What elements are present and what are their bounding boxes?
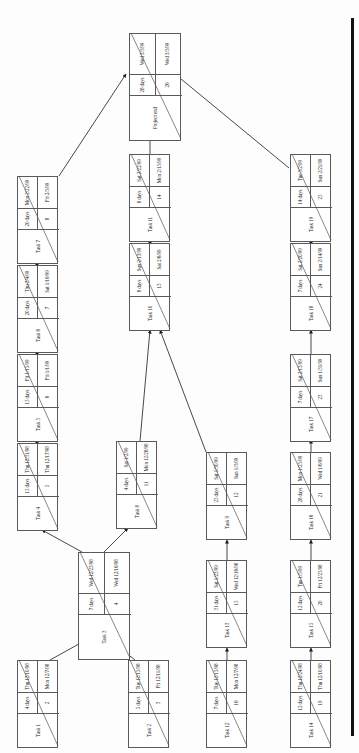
task-node-row-bottom: 4Wed 12/16/98	[105, 553, 130, 614]
task-node-row-bottom: 2Mon 12/7/98	[38, 661, 57, 713]
node-finish: Tue 12/15/98	[129, 661, 148, 692]
node-id: 23	[311, 386, 330, 407]
node-start: Mon 12/28/98	[137, 442, 156, 473]
task-node-fields: 4 daysThu 12/10/982Mon 12/7/98	[18, 661, 57, 713]
task-node[interactable]: Task 118 daysSat 2/22/9914Mon 2/15/99	[129, 154, 170, 242]
node-start: Fri 12/25/98	[311, 561, 330, 592]
node-finish: Sun 2/13/99	[130, 244, 149, 275]
task-node[interactable]: Task 1331 daysSat 1/23/9915Wed 12/16/98	[206, 560, 247, 648]
node-start: Thu 12/10/98	[311, 661, 330, 692]
node-finish: Sat 2/20/99	[291, 244, 310, 275]
task-node[interactable]: Task 187 daysSat 2/20/9924Sun 2/14/99	[290, 243, 331, 331]
task-node[interactable]: Task 1512 daysTue 1/5/9920Fri 12/25/98	[290, 560, 331, 648]
task-node-body: Project end28 daysWed 3/3/9926Wed 3/3/99	[130, 34, 180, 140]
task-node[interactable]: Task 1628 daysMon 1/25/9921Wed 1/6/99	[290, 452, 331, 540]
task-node[interactable]: Task 925 daysSat 1/30/9912Sun 1/3/99	[206, 452, 247, 540]
node-name: Task 5	[18, 407, 59, 441]
node-finish: Mon 2/22/99	[18, 177, 37, 208]
task-node-fields: 25 daysSat 1/30/9912Sun 1/3/99	[207, 453, 246, 505]
task-node-fields: 12 daysTue 1/5/9920Fri 12/25/98	[291, 561, 330, 613]
task-node-body: Task 1331 daysSat 1/23/9915Wed 12/16/98	[207, 561, 246, 647]
task-node-row-bottom: 12Sun 1/3/99	[227, 453, 246, 505]
task-node-row-bottom: 26Wed 3/3/99	[156, 34, 181, 95]
task-node-body: Task 515 daysFri 1/15/996Fri 1/1/99	[18, 355, 57, 441]
task-node[interactable]: Project end28 daysWed 3/3/9926Wed 3/3/99	[129, 33, 181, 141]
dependency-arrow[interactable]	[160, 330, 206, 452]
node-id: 19	[311, 692, 330, 713]
node-id: 7	[38, 297, 57, 318]
task-node[interactable]: Task 14 daysThu 12/10/982Mon 12/7/98	[17, 660, 58, 748]
node-duration: 14 days	[291, 186, 310, 207]
node-start: Wed 3/3/99	[156, 34, 181, 74]
task-node[interactable]: Task 108 daysSun 2/13/9913Sat 2/6/99	[129, 243, 170, 331]
dependency-arrow[interactable]	[140, 330, 150, 441]
node-finish: Thu 2/4/99	[18, 266, 37, 297]
task-node-fields: 7 daysWed 12/23/984Wed 12/16/98	[79, 553, 129, 614]
task-node[interactable]: Task 1914 daysTue 3/2/9925Sun 2/21/99	[290, 154, 331, 242]
task-node-row-top: 31 daysSat 1/23/99	[207, 561, 227, 613]
node-duration: 12 days	[291, 692, 310, 713]
task-node[interactable]: Task 25 daysTue 12/15/983Fri 12/11/98	[128, 660, 169, 748]
task-node-row-top: 12 daysTue 1/5/99	[291, 561, 311, 613]
task-node-fields: 20 daysMon 2/22/998Fri 2/5/99	[18, 177, 57, 229]
node-start: Sun 1/3/99	[227, 453, 246, 484]
dependency-arrow[interactable]	[42, 530, 82, 552]
task-node-body: Task 415 daysThu 12/31/985Thu 12/17/98	[18, 444, 57, 530]
node-id: 14	[150, 186, 169, 207]
task-node[interactable]: Task 620 daysThu 2/4/997Sat 1/16/99	[17, 265, 58, 353]
node-duration: 25 days	[207, 484, 226, 505]
node-name: Task 17	[291, 407, 332, 441]
task-node-body: Task 720 daysMon 2/22/998Fri 2/5/99	[18, 177, 57, 263]
task-node-row-top: 15 daysThu 12/31/98	[18, 444, 38, 496]
task-node[interactable]: Task 1412 daysThu 12/24/9819Thu 12/10/98	[290, 660, 331, 748]
task-node-row-bottom: 23Sun 1/31/99	[311, 355, 330, 407]
node-id: 4	[105, 593, 130, 614]
task-node[interactable]: Task 515 daysFri 1/15/996Fri 1/1/99	[17, 354, 58, 442]
task-node[interactable]: Task 127 daysTue 12/15/9816Mon 12/7/98	[206, 660, 247, 748]
task-node-fields: 15 daysFri 1/15/996Fri 1/1/99	[18, 355, 57, 407]
task-node-body: Task 177 daysSat 2/13/9923Sun 1/31/99	[291, 355, 330, 441]
task-node[interactable]: Task 720 daysMon 2/22/998Fri 2/5/99	[17, 176, 58, 264]
dependency-arrow[interactable]	[104, 528, 128, 552]
task-node-body: Task 14 daysThu 12/10/982Mon 12/7/98	[18, 661, 57, 747]
node-duration: 20 days	[18, 208, 37, 229]
task-node-fields: 15 daysThu 12/31/985Thu 12/17/98	[18, 444, 57, 496]
task-node-row-bottom: 25Sun 2/21/99	[311, 155, 330, 207]
task-node-row-top: 5 daysTue 12/15/98	[129, 661, 149, 713]
task-node-row-bottom: 13Sat 2/6/99	[150, 244, 169, 296]
task-node-row-top: 20 daysThu 2/4/99	[18, 266, 38, 318]
dependency-arrow[interactable]	[59, 74, 126, 176]
node-duration: 15 days	[18, 475, 37, 496]
dependency-arrow[interactable]	[175, 74, 289, 168]
task-node-row-top: 12 daysThu 12/24/98	[291, 661, 311, 713]
node-finish: Sat 1/2/99	[117, 442, 136, 473]
task-node-row-top: 28 daysWed 3/3/99	[130, 34, 156, 95]
node-name: Task 18	[291, 296, 332, 330]
node-finish: Thu 12/24/98	[291, 661, 310, 692]
node-name: Task 16	[291, 505, 332, 539]
node-start: Mon 2/15/99	[150, 155, 169, 186]
node-name: Task 15	[291, 613, 332, 647]
task-node-row-bottom: 16Mon 12/7/98	[227, 661, 246, 713]
task-node-body: Task 187 daysSat 2/20/9924Sun 2/14/99	[291, 244, 330, 330]
task-node[interactable]: Task 37 daysWed 12/23/984Wed 12/16/98	[78, 552, 130, 660]
node-finish: Wed 3/3/99	[130, 34, 155, 74]
node-duration: 28 days	[291, 484, 310, 505]
task-node-row-top: 15 daysFri 1/15/99	[18, 355, 38, 407]
node-name: Task 10	[130, 296, 171, 330]
node-finish: Tue 1/5/99	[291, 561, 310, 592]
task-node[interactable]: Task 177 daysSat 2/13/9923Sun 1/31/99	[290, 354, 331, 442]
task-node-fields: 12 daysThu 12/24/9819Thu 12/10/98	[291, 661, 330, 713]
node-start: Thu 12/17/98	[38, 444, 57, 475]
task-node-body: Task 25 daysTue 12/15/983Fri 12/11/98	[129, 661, 168, 747]
task-node-body: Task 1628 daysMon 1/25/9921Wed 1/6/99	[291, 453, 330, 539]
node-id: 26	[156, 74, 181, 95]
node-start: Fri 2/5/99	[38, 177, 57, 208]
task-node[interactable]: Task 84 daysSat 1/2/9911Mon 12/28/98	[116, 441, 157, 529]
task-node-body: Task 1914 daysTue 3/2/9925Sun 2/21/99	[291, 155, 330, 241]
node-start: Fri 12/11/98	[149, 661, 168, 692]
node-duration: 8 days	[130, 186, 149, 207]
node-duration: 12 days	[291, 592, 310, 613]
task-node[interactable]: Task 415 daysThu 12/31/985Thu 12/17/98	[17, 443, 58, 531]
node-id: 16	[227, 692, 246, 713]
